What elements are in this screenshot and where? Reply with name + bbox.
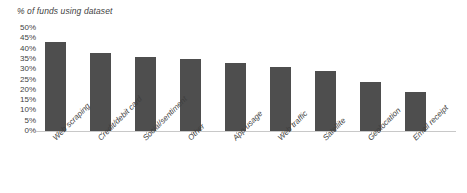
y-axis-tick-label: 30% xyxy=(0,65,36,73)
bar-chart: % of funds using dataset 50%45%40%35%30%… xyxy=(0,0,467,193)
y-axis-tick-label: 40% xyxy=(0,45,36,53)
y-axis-tick-label: 10% xyxy=(0,106,36,114)
y-axis-tick-label: 35% xyxy=(0,55,36,63)
y-axis-tick-label: 15% xyxy=(0,96,36,104)
y-axis-tick-label: 5% xyxy=(0,117,36,125)
y-axis: 50%45%40%35%30%25%20%15%10%5%0% xyxy=(0,28,36,131)
y-axis-tick-label: 50% xyxy=(0,24,36,32)
bar xyxy=(90,53,111,131)
y-axis-tick-label: 45% xyxy=(0,34,36,42)
y-axis-tick-label: 0% xyxy=(0,127,36,135)
y-axis-tick-label: 25% xyxy=(0,76,36,84)
bar xyxy=(315,71,336,131)
bar xyxy=(270,67,291,131)
y-axis-tick-label: 20% xyxy=(0,86,36,94)
chart-title: % of funds using dataset xyxy=(17,6,113,16)
bar xyxy=(225,63,246,131)
bar xyxy=(45,42,66,131)
